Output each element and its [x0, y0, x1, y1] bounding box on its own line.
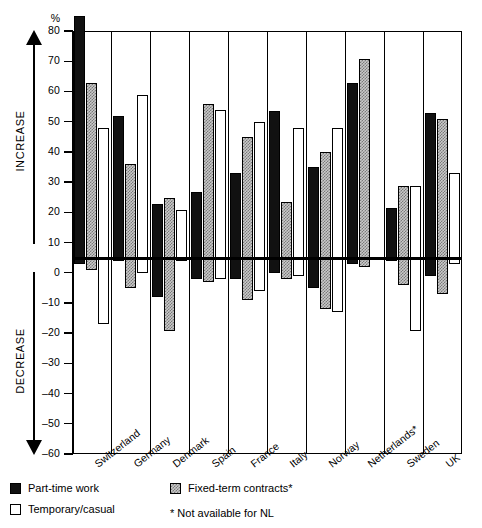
y-axis-tick-label: –40 [0, 388, 60, 398]
y-axis-tick-label: 70 [0, 55, 60, 65]
bar-increase [191, 192, 202, 258]
bar-increase [74, 16, 85, 258]
bar-decrease [332, 258, 343, 312]
bar-decrease [398, 258, 409, 285]
legend-label-fixed-term-contracts: Fixed-term contracts* [188, 482, 293, 494]
bar-increase [152, 204, 163, 258]
legend-item-temporary-casual: Temporary/casual [10, 503, 115, 515]
bar-decrease [152, 258, 163, 297]
bar-increase [215, 110, 226, 258]
bar-increase [203, 104, 214, 258]
bar-increase [269, 111, 280, 258]
white-swatch-icon [10, 504, 21, 515]
decrease-axis-label: DECREASE [14, 311, 26, 411]
bar-increase [320, 152, 331, 258]
bar-decrease [191, 258, 202, 279]
zero-baseline [72, 257, 462, 260]
bar-increase [176, 210, 187, 258]
grey-swatch-icon [170, 483, 181, 494]
bar-decrease [269, 258, 280, 273]
bar-increase [113, 116, 124, 258]
bar-decrease [203, 258, 214, 282]
bar-increase [98, 128, 109, 258]
bar-decrease [98, 258, 109, 324]
bar-decrease [281, 258, 292, 279]
bar-increase [242, 137, 253, 258]
bar-increase [137, 95, 148, 258]
black-swatch-icon [10, 483, 21, 494]
y-axis-tick-label: –10 [0, 297, 60, 307]
bar-increase [308, 167, 319, 258]
y-axis-unit-label: % [0, 12, 60, 24]
bar-decrease [425, 258, 436, 276]
bar-increase [347, 83, 358, 258]
bar-decrease [437, 258, 448, 294]
y-axis-tick-label: –20 [0, 327, 60, 337]
y-axis-tick-label: 40 [0, 146, 60, 156]
bar-increase [230, 173, 241, 258]
legend-label-part-time-work: Part-time work [28, 482, 99, 494]
y-axis-tick-label: 10 [0, 237, 60, 247]
y-axis-tick-label: 30 [0, 176, 60, 186]
bar-decrease [320, 258, 331, 309]
bar-decrease [293, 258, 304, 276]
bar-increase [425, 113, 436, 258]
y-axis-tick-label: –30 [0, 357, 60, 367]
increase-axis-label: INCREASE [14, 91, 26, 191]
bar-increase [359, 59, 370, 258]
bar-decrease [125, 258, 136, 288]
increase-arrow-shaft [33, 44, 35, 244]
bar-increase [125, 164, 136, 258]
y-axis-tick-label: –50 [0, 418, 60, 428]
bar-decrease [308, 258, 319, 288]
bar-chart: % 80706050403020100–10–20–30–40–50–60 IN… [0, 0, 482, 528]
bar-increase [386, 208, 397, 258]
y-axis-tick-label: 0 [0, 267, 60, 277]
bar-increase [281, 202, 292, 258]
legend-item-fixed-term-contracts: Fixed-term contracts* [170, 482, 293, 494]
y-axis-tick-label: 20 [0, 206, 60, 216]
bar-increase [398, 186, 409, 259]
legend-item-part-time-work: Part-time work [10, 482, 99, 494]
bar-increase [437, 119, 448, 258]
bar-increase [86, 83, 97, 258]
bar-increase [254, 122, 265, 258]
y-axis-tick-label: 50 [0, 116, 60, 126]
bar-increase [164, 198, 175, 258]
bar-increase [449, 173, 460, 258]
increase-arrow-head [26, 30, 42, 45]
bar-decrease [410, 258, 421, 331]
bar-increase [293, 128, 304, 258]
bar-decrease [164, 258, 175, 331]
positive-bars-layer [72, 31, 462, 258]
bar-increase [410, 186, 421, 259]
bar-decrease [137, 258, 148, 273]
bar-increase [332, 128, 343, 258]
decrease-arrow-head [26, 440, 42, 455]
bar-decrease [86, 258, 97, 270]
bar-decrease [215, 258, 226, 279]
bar-decrease [230, 258, 241, 279]
y-axis-tick-label: 60 [0, 85, 60, 95]
decrease-arrow-shaft [33, 272, 35, 447]
legend-footnote: * Not available for NL [170, 507, 274, 519]
bar-decrease [254, 258, 265, 291]
chart-legend: Part-time work Fixed-term contracts* Tem… [10, 482, 472, 524]
negative-bars-layer [72, 258, 462, 454]
bar-decrease [242, 258, 253, 300]
legend-label-temporary-casual: Temporary/casual [28, 503, 115, 515]
